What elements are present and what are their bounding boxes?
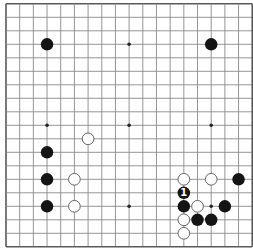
star-point-icon (127, 205, 131, 209)
white-stone-icon (178, 227, 190, 239)
black-stone[interactable] (191, 214, 204, 227)
white-stone-icon (192, 200, 204, 212)
white-stone-icon (178, 173, 190, 185)
white-stone[interactable] (205, 173, 217, 185)
star-point-icon (209, 124, 213, 128)
white-stone[interactable] (69, 200, 81, 212)
move-number-label: 1 (180, 187, 187, 198)
white-stone-icon (178, 214, 190, 226)
white-stone-icon (69, 173, 81, 185)
white-stone[interactable] (69, 173, 81, 185)
black-stone-icon (219, 200, 232, 213)
black-stone-icon (41, 173, 54, 186)
star-point-icon (127, 124, 131, 128)
star-point-icon (127, 43, 131, 47)
black-stone-icon (41, 200, 54, 213)
white-stone[interactable] (82, 133, 94, 145)
black-stone-icon (232, 173, 245, 186)
star-point-icon (45, 124, 49, 128)
black-stone[interactable] (205, 38, 218, 51)
black-stone-icon (41, 146, 54, 159)
white-stone-icon (205, 173, 217, 185)
black-stone-icon (205, 214, 218, 227)
white-stone[interactable] (178, 214, 190, 226)
star-point-icon (209, 205, 213, 209)
white-stone-icon (82, 133, 94, 145)
black-stone[interactable] (41, 200, 54, 213)
black-stone[interactable]: 1 (178, 187, 191, 200)
black-stone-icon (41, 38, 54, 51)
white-stone[interactable] (192, 200, 204, 212)
black-stone[interactable] (41, 173, 54, 186)
white-stone-icon (69, 200, 81, 212)
black-stone[interactable] (232, 173, 245, 186)
white-stone[interactable] (178, 173, 190, 185)
go-board-grid[interactable]: 1 (0, 0, 253, 250)
black-stone-icon (191, 214, 204, 227)
black-stone-icon (178, 200, 191, 213)
black-stone[interactable] (41, 38, 54, 51)
white-stone[interactable] (178, 227, 190, 239)
black-stone-icon (205, 38, 218, 51)
black-stone[interactable] (219, 200, 232, 213)
black-stone[interactable] (41, 146, 54, 159)
black-stone[interactable] (205, 214, 218, 227)
go-board[interactable]: 1 (0, 0, 253, 250)
black-stone[interactable] (178, 200, 191, 213)
